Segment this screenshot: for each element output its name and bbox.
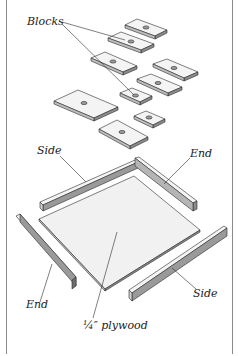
- block-6: [120, 88, 152, 105]
- label-side-top: Side: [37, 145, 62, 156]
- label-end-bottom: End: [26, 299, 48, 310]
- block-8: [134, 111, 165, 128]
- blocks-group: [54, 19, 198, 149]
- block-7: [54, 90, 118, 121]
- label-plywood: ¼″ plywood: [83, 320, 148, 331]
- label-side-bottom: Side: [193, 288, 218, 299]
- block-3: [91, 52, 137, 75]
- block-9: [99, 120, 148, 149]
- label-blocks: Blocks: [27, 16, 64, 27]
- label-end-top: End: [190, 148, 212, 159]
